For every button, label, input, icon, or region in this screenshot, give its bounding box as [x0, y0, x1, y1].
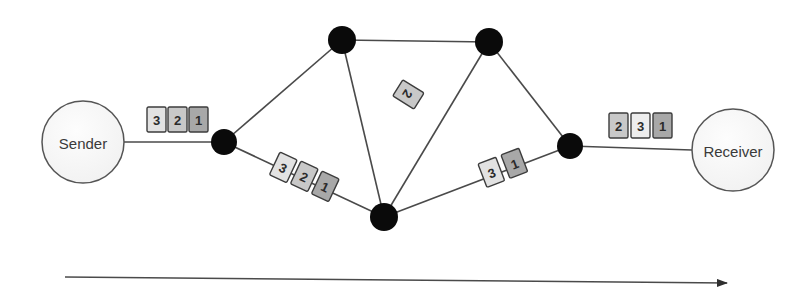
link-topright-right: [489, 42, 570, 146]
sender-endpoint[interactable]: Sender: [42, 101, 124, 183]
router-node-left[interactable]: [211, 129, 237, 155]
packet-label: 3: [637, 119, 644, 134]
packet-box[interactable]: 2: [393, 80, 424, 109]
packet-group-diagonal-link: 2: [393, 80, 424, 109]
link-right-receiver: [570, 146, 692, 150]
link-bottom-topright: [384, 42, 489, 217]
packet-group-lower-right-link: 3 1: [478, 148, 528, 187]
packet-label: 2: [615, 119, 622, 134]
router-node-top-right[interactable]: [475, 28, 503, 56]
link-topleft-bottom: [342, 40, 384, 217]
time-arrow: [65, 277, 727, 283]
link-topleft-topright: [342, 40, 489, 42]
packet-box[interactable]: 2: [609, 113, 628, 138]
router-node-bottom[interactable]: [370, 203, 398, 231]
packet-box[interactable]: 1: [653, 113, 672, 138]
packet-box[interactable]: 2: [168, 107, 187, 132]
time-axis-layer: [65, 277, 727, 283]
packet-box[interactable]: 1: [501, 148, 528, 178]
sender-label: Sender: [59, 135, 107, 152]
receiver-endpoint[interactable]: Receiver: [692, 109, 774, 191]
packet-label: 1: [195, 113, 202, 128]
packet-box[interactable]: 3: [147, 107, 166, 132]
router-node-right[interactable]: [557, 133, 583, 159]
packet-box[interactable]: 1: [189, 107, 208, 132]
diagram-canvas: Sender Receiver 3 2 1: [0, 0, 812, 295]
network-diagram: Sender Receiver 3 2 1: [0, 0, 812, 295]
links-layer: [124, 40, 692, 217]
receiver-label: Receiver: [703, 143, 762, 160]
link-bottom-right: [384, 146, 570, 217]
packet-group-lower-left-link: 3 2 1: [269, 152, 339, 202]
packet-group-sender-link: 3 2 1: [147, 107, 208, 132]
packet-label: 3: [153, 113, 160, 128]
router-node-top-left[interactable]: [328, 26, 356, 54]
packet-box[interactable]: 3: [631, 113, 650, 138]
routers-layer: [211, 26, 583, 231]
packet-label: 2: [174, 113, 181, 128]
packet-box[interactable]: 3: [478, 157, 505, 187]
packet-group-receiver-link: 2 3 1: [609, 113, 672, 138]
packet-label: 1: [659, 119, 666, 134]
link-left-topleft: [224, 40, 342, 142]
